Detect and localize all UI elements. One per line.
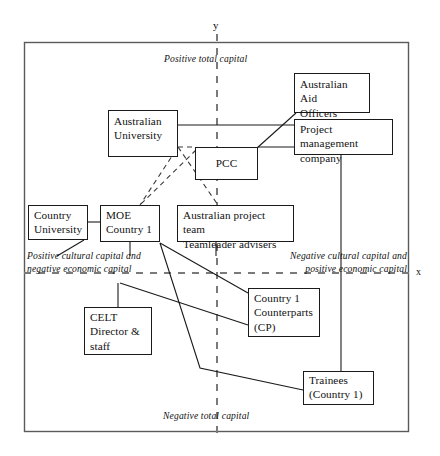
node-celt[interactable]: CELT Director & staff [84, 307, 152, 355]
node-australian-project-team-line1: Australian project team [183, 208, 289, 237]
link-pcc-to-moe-dashed [140, 150, 196, 205]
node-australian-university-line2: University [114, 128, 173, 142]
node-project-management-company[interactable]: Project management company [294, 119, 393, 155]
node-country-university-line1: Country [34, 208, 83, 222]
node-trainees-line1: Trainees [309, 373, 369, 387]
node-country-counterparts-line2: Counterparts [254, 305, 315, 319]
node-trainees[interactable]: Trainees (Country 1) [303, 371, 374, 405]
link-ausuni-to-moe-dashed [140, 150, 176, 205]
node-country-counterparts-line3: (CP) [254, 320, 315, 334]
node-australian-aid-officers-line1: Australian Aid [300, 77, 365, 106]
node-celt-line3: staff [90, 339, 147, 353]
x-axis-label: x [416, 266, 421, 277]
node-australian-aid-officers[interactable]: Australian Aid Officers [294, 73, 370, 113]
quadrant-label-right: Negative cultural capital and positive e… [272, 250, 407, 275]
quadrant-label-bottom: Negative total capital [163, 410, 249, 423]
node-australian-university[interactable]: Australian University [108, 110, 178, 157]
diagram-canvas: y x Positive total capital Negative tota… [0, 0, 440, 456]
node-celt-line2: Director & [90, 324, 147, 338]
quadrant-label-top: Positive total capital [164, 53, 247, 66]
node-australian-university-line1: Australian [114, 114, 173, 128]
y-axis-label: y [213, 19, 219, 31]
quadrant-label-left-line1: Positive cultural capital and [27, 250, 141, 263]
node-pcc-line1: PCC [200, 156, 253, 170]
node-pcc[interactable]: PCC [195, 147, 258, 180]
node-australian-project-team-line2: Teamleader advisers [183, 237, 289, 251]
quadrant-label-right-line2: positive economic capital [272, 263, 407, 276]
node-trainees-line2: (Country 1) [309, 387, 369, 401]
link-pcc-to-aid-officers [257, 113, 296, 148]
node-country-counterparts-line1: Country 1 [254, 291, 315, 305]
node-country-university-line2: University [34, 222, 83, 236]
quadrant-label-right-line1: Negative cultural capital and [272, 250, 407, 263]
node-country-counterparts[interactable]: Country 1 Counterparts (CP) [248, 288, 320, 337]
node-moe-country[interactable]: MOE Country 1 [100, 205, 160, 242]
node-moe-country-line2: Country 1 [106, 222, 155, 236]
quadrant-label-left: Positive cultural capital and negative e… [27, 250, 141, 275]
node-country-university[interactable]: Country University [28, 205, 88, 240]
node-celt-line1: CELT [90, 310, 147, 324]
node-project-management-company-line1: Project management [300, 122, 388, 151]
quadrant-label-left-line2: negative economic capital [27, 263, 141, 276]
node-australian-aid-officers-line2: Officers [300, 106, 365, 120]
node-project-management-company-line2: company [300, 151, 388, 165]
node-moe-country-line1: MOE [106, 208, 155, 222]
node-australian-project-team[interactable]: Australian project team Teamleader advis… [177, 205, 294, 242]
